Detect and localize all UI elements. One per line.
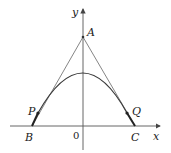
point-a xyxy=(82,36,85,39)
label-q: Q xyxy=(132,105,141,118)
label-p: P xyxy=(27,105,36,118)
y-axis-label: y xyxy=(71,6,79,19)
point-q xyxy=(125,111,128,114)
label-c: C xyxy=(131,131,140,144)
point-p xyxy=(36,111,39,114)
tangent-line-left xyxy=(32,37,83,126)
parabola-curve xyxy=(38,73,127,113)
label-b: B xyxy=(24,131,33,144)
origin-label: 0 xyxy=(73,130,79,141)
parabola-tangent-diagram: y x 0 A B C P Q xyxy=(0,0,171,153)
label-a: A xyxy=(86,26,95,39)
x-axis-label: x xyxy=(153,130,160,143)
